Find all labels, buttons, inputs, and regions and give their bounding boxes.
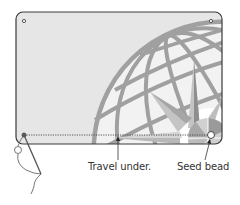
hole-top-left: [22, 19, 25, 22]
travel-under-label: Travel under.: [88, 161, 151, 172]
seed-bead: [208, 132, 215, 139]
hole-top-right: [209, 19, 212, 22]
beading-diagram: [0, 0, 240, 205]
travel-under-pointer: [116, 136, 120, 160]
card: [16, 0, 240, 205]
seed-bead-label: Seed bead: [177, 161, 229, 172]
